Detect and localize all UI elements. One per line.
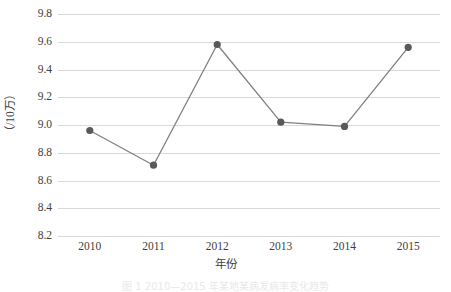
figure-caption: 图 1 2010—2015 年某地某病发病率变化趋势 [0, 281, 451, 292]
data-series-line [58, 14, 440, 236]
y-tick-label: 8.6 [38, 175, 52, 187]
y-tick-label: 9.0 [38, 119, 52, 131]
data-point-marker [150, 162, 157, 169]
y-tick-label: 8.8 [38, 147, 52, 159]
x-axis-tick-labels: 201020112012201320142015 [58, 240, 440, 256]
y-tick-label: 9.4 [38, 64, 52, 76]
x-tick-label: 2013 [253, 240, 309, 253]
data-point-marker [341, 123, 348, 130]
y-tick-label: 9.6 [38, 36, 52, 48]
y-axis-title: （/10万） [4, 75, 16, 151]
data-point-marker [86, 127, 93, 134]
y-axis-tick-labels: 9.89.69.49.29.08.88.68.48.2 [16, 14, 52, 236]
series-polyline [90, 45, 408, 166]
x-tick-label: 2015 [380, 240, 436, 253]
y-tick-label: 8.4 [38, 202, 52, 214]
data-point-marker [277, 119, 284, 126]
data-point-marker [405, 44, 412, 51]
y-tick-label: 9.2 [38, 91, 52, 103]
x-tick-label: 2012 [189, 240, 245, 253]
x-tick-label: 2010 [62, 240, 118, 253]
x-axis-title: 年份 [0, 258, 451, 271]
y-tick-label: 8.2 [38, 230, 52, 242]
x-tick-label: 2011 [126, 240, 182, 253]
gridline [58, 236, 440, 237]
data-point-marker [214, 41, 221, 48]
plot-area [58, 14, 440, 236]
x-tick-label: 2014 [317, 240, 373, 253]
y-tick-label: 9.8 [38, 8, 52, 20]
